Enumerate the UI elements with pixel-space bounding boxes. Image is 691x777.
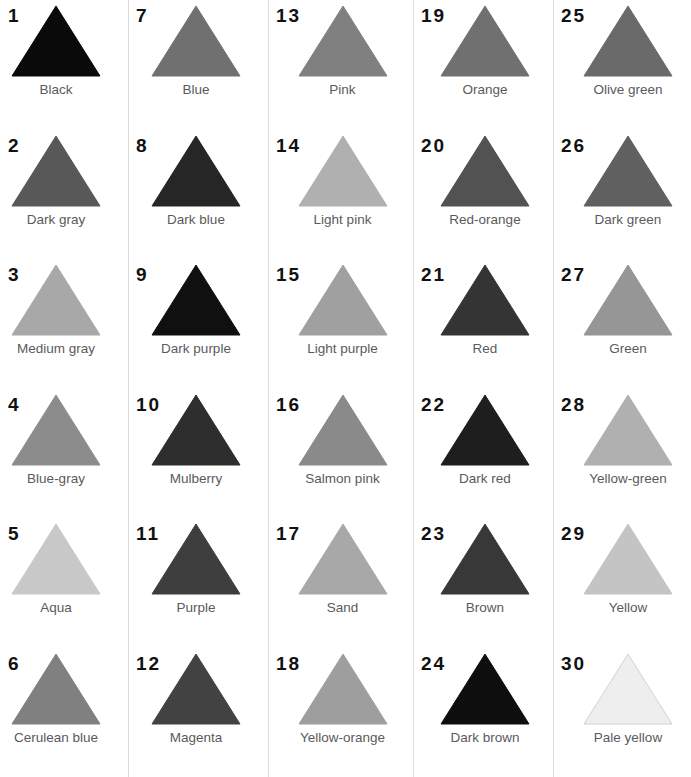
triangle-icon <box>297 263 389 337</box>
swatch-label: Pale yellow <box>594 731 662 746</box>
swatch-body: Dark gray <box>0 130 120 228</box>
swatch-cell: 1Black <box>0 0 128 130</box>
swatch-cell: 14Light pink <box>268 130 413 260</box>
swatch-body: Dark purple <box>126 259 266 357</box>
swatch-cell: 3Medium gray <box>0 259 128 389</box>
swatch-label: Blue <box>182 83 209 98</box>
swatch-cell: 8Dark blue <box>128 130 268 260</box>
swatch-cell: 13Pink <box>268 0 413 130</box>
swatch-body: Dark green <box>559 130 691 228</box>
swatch-cell: 2Dark gray <box>0 130 128 260</box>
triangle-icon <box>439 652 531 726</box>
swatch-label: Light pink <box>314 213 372 228</box>
swatch-body: Blue <box>126 0 266 98</box>
swatch-label: Yellow-green <box>589 472 667 487</box>
swatch-cell: 22Dark red <box>413 389 553 519</box>
swatch-body: Yellow-green <box>559 389 691 487</box>
swatch-cell: 11Purple <box>128 518 268 648</box>
triangle-icon <box>582 134 674 208</box>
triangle-icon <box>150 4 242 78</box>
triangle-icon <box>297 393 389 467</box>
swatch-body: Light purple <box>270 259 415 357</box>
swatch-cell: 16Salmon pink <box>268 389 413 519</box>
swatch-cell: 17Sand <box>268 518 413 648</box>
swatch-label: Dark purple <box>161 342 231 357</box>
swatch-body: Mulberry <box>126 389 266 487</box>
triangle-icon <box>582 522 674 596</box>
swatch-body: Aqua <box>0 518 120 616</box>
swatch-body: Orange <box>415 0 555 98</box>
swatch-label: Yellow <box>609 601 648 616</box>
swatch-cell: 27Green <box>553 259 691 389</box>
swatch-cell: 9Dark purple <box>128 259 268 389</box>
swatch-body: Brown <box>415 518 555 616</box>
swatch-body: Blue-gray <box>0 389 120 487</box>
swatch-body: Salmon pink <box>270 389 415 487</box>
swatch-label: Sand <box>327 601 359 616</box>
triangle-icon <box>10 4 102 78</box>
triangle-icon <box>150 393 242 467</box>
triangle-icon <box>439 4 531 78</box>
swatch-label: Mulberry <box>170 472 223 487</box>
triangle-icon <box>439 263 531 337</box>
triangle-icon <box>10 134 102 208</box>
swatch-body: Yellow-orange <box>270 648 415 746</box>
swatch-label: Brown <box>466 601 504 616</box>
swatch-label: Dark green <box>595 213 662 228</box>
swatch-body: Cerulean blue <box>0 648 120 746</box>
swatch-label: Dark red <box>459 472 511 487</box>
swatch-label: Medium gray <box>17 342 95 357</box>
triangle-icon <box>10 263 102 337</box>
swatch-cell: 28Yellow-green <box>553 389 691 519</box>
swatch-label: Cerulean blue <box>14 731 98 746</box>
triangle-icon <box>297 134 389 208</box>
swatch-cell: 10Mulberry <box>128 389 268 519</box>
swatch-cell: 29Yellow <box>553 518 691 648</box>
triangle-icon <box>582 263 674 337</box>
swatch-cell: 23Brown <box>413 518 553 648</box>
triangle-icon <box>150 134 242 208</box>
swatch-label: Salmon pink <box>305 472 379 487</box>
triangle-icon <box>297 4 389 78</box>
swatch-label: Purple <box>176 601 215 616</box>
swatch-label: Light purple <box>307 342 378 357</box>
triangle-icon <box>582 4 674 78</box>
triangle-icon <box>10 652 102 726</box>
swatch-cell: 24Dark brown <box>413 648 553 777</box>
swatch-body: Black <box>0 0 120 98</box>
swatch-label: Dark blue <box>167 213 225 228</box>
swatch-cell: 7Blue <box>128 0 268 130</box>
swatch-cell: 12Magenta <box>128 648 268 777</box>
swatch-label: Blue-gray <box>27 472 85 487</box>
swatch-label: Green <box>609 342 647 357</box>
triangle-icon <box>582 393 674 467</box>
triangle-icon <box>297 522 389 596</box>
swatch-label: Orange <box>462 83 507 98</box>
swatch-cell: 6Cerulean blue <box>0 648 128 777</box>
triangle-icon <box>582 652 674 726</box>
swatch-cell: 26Dark green <box>553 130 691 260</box>
swatch-cell: 15Light purple <box>268 259 413 389</box>
triangle-icon <box>150 652 242 726</box>
swatch-label: Red-orange <box>449 213 520 228</box>
swatch-body: Sand <box>270 518 415 616</box>
triangle-icon <box>150 263 242 337</box>
swatch-cell: 18Yellow-orange <box>268 648 413 777</box>
swatch-cell: 4Blue-gray <box>0 389 128 519</box>
swatch-body: Light pink <box>270 130 415 228</box>
swatch-body: Red-orange <box>415 130 555 228</box>
triangle-icon <box>439 522 531 596</box>
swatch-label: Olive green <box>593 83 662 98</box>
triangle-icon <box>297 652 389 726</box>
swatch-body: Pink <box>270 0 415 98</box>
swatch-body: Green <box>559 259 691 357</box>
swatch-label: Black <box>39 83 72 98</box>
swatch-cell: 25Olive green <box>553 0 691 130</box>
swatch-cell: 5Aqua <box>0 518 128 648</box>
swatch-label: Aqua <box>40 601 72 616</box>
swatch-body: Purple <box>126 518 266 616</box>
swatch-label: Yellow-orange <box>300 731 385 746</box>
triangle-icon <box>439 134 531 208</box>
triangle-icon <box>10 522 102 596</box>
